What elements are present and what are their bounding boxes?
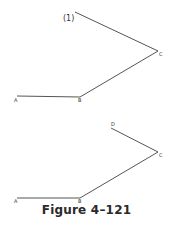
point-label-b: B bbox=[78, 97, 82, 103]
figure-caption: Figure 4–121 bbox=[0, 203, 173, 217]
point-label-a: A bbox=[14, 97, 18, 103]
segment-bc bbox=[80, 51, 158, 97]
figure-canvas: (1) A B C D A B C bbox=[0, 0, 173, 227]
segment-cd bbox=[111, 128, 158, 152]
diagram-bottom: D A B C bbox=[14, 121, 163, 204]
point-label-d: D bbox=[111, 121, 115, 127]
segment-c-construction bbox=[75, 12, 158, 51]
point-label-c: C bbox=[159, 152, 163, 158]
point-label-c: C bbox=[159, 51, 163, 57]
step-label: (1) bbox=[63, 14, 74, 23]
diagram-top: (1) A B C bbox=[14, 12, 163, 103]
segment-ab bbox=[17, 96, 80, 97]
segment-bc bbox=[80, 152, 158, 198]
